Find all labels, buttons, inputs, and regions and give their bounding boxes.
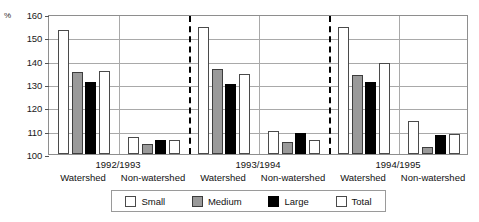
gridline-140 — [49, 63, 467, 64]
x-axis-group-label: Watershed — [340, 172, 386, 183]
bar-medium-1 — [142, 144, 153, 155]
y-tick-label-110: 110 — [0, 126, 46, 137]
y-tick-mark-110 — [45, 133, 49, 134]
legend-swatch-large-icon — [268, 196, 279, 207]
legend-swatch-total-icon — [336, 196, 347, 207]
bar-total-0 — [99, 71, 110, 154]
category-separator — [259, 16, 260, 154]
y-tick-mark-160 — [45, 16, 49, 17]
y-tick-label-130: 130 — [0, 80, 46, 91]
y-tick-mark-150 — [45, 39, 49, 40]
bar-medium-5 — [422, 147, 433, 154]
x-axis-group-label: Non-watershed — [261, 172, 325, 183]
bar-large-4 — [365, 82, 376, 154]
x-axis-season-label: 1993/1994 — [236, 159, 281, 170]
legend-label-medium: Medium — [208, 196, 242, 207]
y-axis: % 100110120130140150160 — [0, 0, 46, 222]
legend-item-total[interactable]: Total — [336, 196, 372, 207]
bar-medium-2 — [212, 69, 223, 154]
bar-medium-0 — [72, 72, 83, 154]
y-tick-mark-100 — [45, 156, 49, 157]
bar-medium-4 — [352, 75, 363, 154]
y-tick-label-100: 100 — [0, 150, 46, 161]
bar-small-3 — [268, 131, 279, 154]
category-separator — [119, 16, 120, 154]
legend-label-small: Small — [141, 196, 165, 207]
legend-swatch-medium-icon — [192, 196, 203, 207]
bar-small-4 — [338, 27, 349, 154]
x-axis-season-label: 1992/1993 — [96, 159, 141, 170]
x-axis-group-label: Watershed — [60, 172, 106, 183]
legend-label-large: Large — [284, 196, 308, 207]
y-tick-label-140: 140 — [0, 56, 46, 67]
gridline-150 — [49, 39, 467, 40]
x-axis-group-label: Non-watershed — [401, 172, 465, 183]
bar-small-5 — [408, 121, 419, 154]
bar-total-3 — [309, 140, 320, 154]
category-separator — [399, 16, 400, 154]
bar-small-0 — [58, 30, 69, 154]
legend-label-total: Total — [352, 196, 372, 207]
bar-large-1 — [155, 140, 166, 154]
y-tick-mark-140 — [45, 63, 49, 64]
season-separator — [189, 16, 191, 154]
bar-large-3 — [295, 133, 306, 154]
x-axis-season-label: 1994/1995 — [376, 159, 421, 170]
gridline-120 — [49, 109, 467, 110]
bar-large-5 — [435, 135, 446, 154]
bar-total-2 — [239, 74, 250, 155]
y-tick-mark-130 — [45, 86, 49, 87]
chart-legend: SmallMediumLargeTotal — [111, 190, 386, 212]
plot-area — [48, 15, 468, 155]
bar-total-5 — [449, 134, 460, 154]
x-axis-group-label: Non-watershed — [121, 172, 185, 183]
legend-item-small[interactable]: Small — [125, 196, 165, 207]
gridline-130 — [49, 86, 467, 87]
bar-small-1 — [128, 137, 139, 155]
legend-item-medium[interactable]: Medium — [192, 196, 242, 207]
legend-item-large[interactable]: Large — [268, 196, 308, 207]
bar-total-4 — [379, 63, 390, 154]
y-tick-label-160: 160 — [0, 10, 46, 21]
y-tick-label-150: 150 — [0, 33, 46, 44]
legend-swatch-small-icon — [125, 196, 136, 207]
x-axis-group-label: Watershed — [200, 172, 246, 183]
chart-container: % 100110120130140150160 SmallMediumLarge… — [0, 0, 479, 222]
season-separator — [329, 16, 331, 154]
bar-large-2 — [225, 84, 236, 154]
gridline-110 — [49, 133, 467, 134]
y-tick-mark-120 — [45, 109, 49, 110]
bar-large-0 — [85, 82, 96, 154]
bar-small-2 — [198, 27, 209, 154]
y-tick-label-120: 120 — [0, 103, 46, 114]
bar-medium-3 — [282, 142, 293, 154]
bar-total-1 — [169, 140, 180, 154]
